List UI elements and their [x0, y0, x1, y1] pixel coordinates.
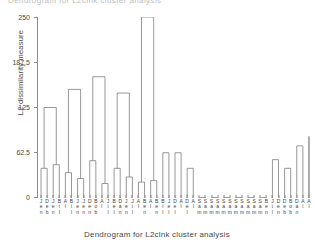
dendrogram-tree — [38, 17, 312, 198]
x-axis-tick-mark — [223, 195, 224, 198]
x-axis-tick-mark — [235, 195, 236, 198]
x-axis-leaf-label: Deb — [282, 199, 288, 215]
x-axis-tick-mark — [290, 195, 291, 198]
leaf-label-char — [300, 210, 306, 215]
x-axis-tick-mark — [41, 195, 42, 198]
x-axis-leaf-label: Sam — [251, 199, 257, 215]
leaf-label-char: l — [56, 210, 62, 215]
x-axis-leaf-label: Jil — [105, 199, 111, 215]
x-axis-tick-mark — [156, 195, 157, 198]
x-axis-leaf-label: Sam — [196, 199, 202, 215]
x-axis-leaf-label: Jel — [166, 199, 172, 215]
x-axis-tick-mark — [260, 195, 261, 198]
leaf-label-char: n — [87, 210, 93, 215]
leaf-label-char: l — [166, 210, 172, 215]
leaf-label-char: m — [233, 210, 239, 215]
x-axis-tick-mark — [71, 195, 72, 198]
x-axis-leaf-label: Sam — [221, 199, 227, 215]
x-axis-leaf-label: Bil — [56, 199, 62, 215]
leaf-label-char: l — [105, 210, 111, 215]
x-axis-leaf-label: Ben — [142, 199, 148, 215]
x-axis-leaf-label: Jen — [81, 199, 87, 215]
x-axis-tick-mark — [47, 195, 48, 198]
x-axis-tick-mark — [241, 195, 242, 198]
leaf-label-char: m — [251, 210, 257, 215]
x-axis-tick-mark — [175, 195, 176, 198]
leaf-label-char: m — [196, 210, 202, 215]
leaf-label-char — [99, 210, 105, 215]
x-axis-leaf-label: Den — [87, 199, 93, 215]
x-axis-leaf-label: Den — [276, 199, 282, 215]
x-axis-tick-mark — [162, 195, 163, 198]
x-axis-tick-mark — [205, 195, 206, 198]
leaf-label-char: n — [123, 210, 129, 215]
x-axis-tick-mark — [229, 195, 230, 198]
leaf-label-char: m — [215, 210, 221, 215]
x-axis-leaf-label: Deb — [44, 199, 50, 215]
x-axis-tick-mark — [108, 195, 109, 198]
x-axis-leaf-label: Sam — [202, 199, 208, 215]
x-axis-tick-mark — [272, 195, 273, 198]
x-axis-tick-mark — [53, 195, 54, 198]
x-axis-tick-mark — [248, 195, 249, 198]
x-axis-tick-mark — [193, 195, 194, 198]
y-tick-label-187-5: 187.5 — [12, 59, 30, 66]
x-axis-leaf-label: Al — [306, 199, 312, 215]
leaf-label-char: n — [154, 210, 160, 215]
x-axis-leaf-label: Ben — [263, 199, 269, 215]
x-axis-tick-mark — [126, 195, 127, 198]
leaf-label-char: b — [44, 210, 50, 215]
x-axis-leaf-label: Al — [135, 199, 141, 215]
x-axis-tick-mark — [181, 195, 182, 198]
x-axis-tick-mark — [217, 195, 218, 198]
x-axis-tick-mark — [308, 195, 309, 198]
clipped-top-title: Dendrogram for L2clnk cluster analysis — [0, 0, 314, 8]
leaf-label-char: l — [184, 210, 190, 215]
x-axis-tick-mark — [150, 195, 151, 198]
x-axis-leaf-labels: JenDebJenBilAl BilJenJenDenBobAl JilBelD… — [38, 199, 312, 225]
x-axis-leaf-label: Jen — [123, 199, 129, 215]
leaf-label-char: l — [160, 210, 166, 215]
x-axis-leaf-label: Jen — [75, 199, 81, 215]
x-axis-tick-mark — [59, 195, 60, 198]
leaf-label-char: n — [117, 210, 123, 215]
x-axis-leaf-label: Al — [300, 199, 306, 215]
leaf-label-char — [135, 210, 141, 215]
leaf-label-char: n — [276, 210, 282, 215]
x-axis-tick-mark — [83, 195, 84, 198]
y-tick-label-0: 0 — [26, 194, 30, 201]
x-axis-tick-mark — [120, 195, 121, 198]
x-axis-tick-mark — [89, 195, 90, 198]
x-axis-tick-mark — [284, 195, 285, 198]
x-axis-tick-mark — [302, 195, 303, 198]
x-axis-tick-mark — [211, 195, 212, 198]
leaf-label-char: m — [257, 210, 263, 215]
x-axis-tick-mark — [199, 195, 200, 198]
x-axis-leaf-label: Del — [184, 199, 190, 215]
leaf-label-char: n — [263, 210, 269, 215]
x-axis-tick-mark — [65, 195, 66, 198]
x-axis-tick-mark — [144, 195, 145, 198]
leaf-label-char — [62, 210, 68, 215]
x-axis-leaf-label: Sam — [257, 199, 263, 215]
leaf-label-char: n — [81, 210, 87, 215]
leaf-label-char: m — [239, 210, 245, 215]
leaf-label-char: m — [221, 210, 227, 215]
dendrogram-plot-area — [38, 17, 312, 198]
x-axis-tick-mark — [132, 195, 133, 198]
leaf-label-char: n — [142, 210, 148, 215]
x-axis-tick-mark — [168, 195, 169, 198]
leaf-label-char: n — [38, 210, 44, 215]
x-axis-leaf-label: Dan — [117, 199, 123, 215]
y-tick-label-62-5: 62.5 — [16, 149, 30, 156]
y-tick-label-250: 250 — [18, 14, 30, 21]
x-axis-tick-mark — [138, 195, 139, 198]
x-axis-tick-mark — [296, 195, 297, 198]
x-axis-tick-mark — [101, 195, 102, 198]
leaf-label-char: n — [294, 210, 300, 215]
leaf-label-char: m — [202, 210, 208, 215]
x-axis-tick-mark — [114, 195, 115, 198]
leaf-label-char: b — [282, 210, 288, 215]
x-axis-leaf-label: Sam — [239, 199, 245, 215]
x-axis-leaf-label: Dan — [294, 199, 300, 215]
